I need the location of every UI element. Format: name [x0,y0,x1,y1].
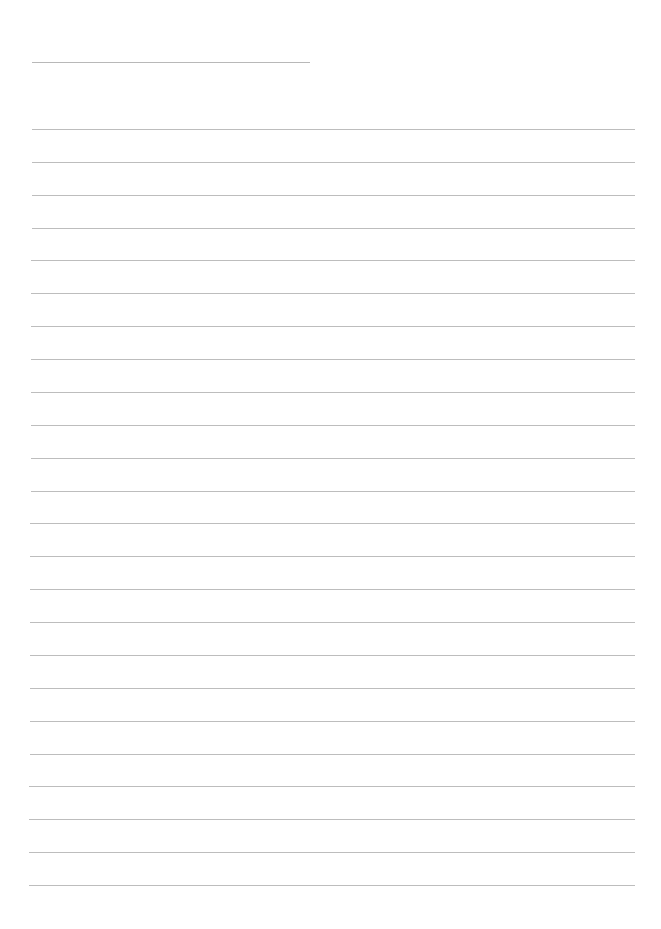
ruled-line [29,852,635,853]
ruled-line [30,721,635,722]
ruled-line [31,293,635,294]
ruled-line [30,589,635,590]
title-line [32,62,310,63]
ruled-line [30,622,635,623]
ruled-line [31,359,635,360]
ruled-line [31,491,635,492]
ruled-line [29,786,635,787]
ruled-line [32,129,635,130]
ruled-line [32,228,635,229]
ruled-line [32,195,635,196]
ruled-line [30,688,635,689]
ruled-line [32,162,635,163]
ruled-line [30,655,635,656]
ruled-line [29,885,635,886]
ruled-line [31,326,635,327]
ruled-line [31,392,635,393]
ruled-line [31,458,635,459]
ruled-line [31,425,635,426]
ruled-line [30,754,635,755]
ruled-line [30,523,635,524]
ruled-line [29,819,635,820]
ruled-line [31,260,635,261]
ruled-line [30,556,635,557]
